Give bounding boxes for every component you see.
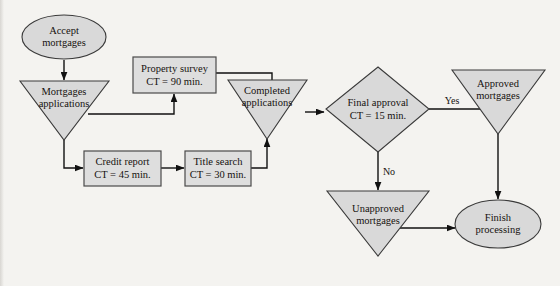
node-final-approval[interactable]: Final approval CT = 15 min. (326, 67, 429, 152)
completed-applications-label-line1: Completed (244, 85, 291, 96)
node-completed-applications[interactable]: Completed applications (228, 80, 307, 139)
edge-label-yes: Yes (445, 95, 460, 106)
node-unapproved-mortgages[interactable]: Unapproved mortgages (327, 191, 429, 256)
node-accept-mortgages[interactable]: Accept mortgages (22, 15, 106, 59)
completed-applications-label-line2: applications (242, 97, 293, 108)
node-credit-report[interactable]: Credit report CT = 45 min. (84, 151, 161, 186)
node-title-search[interactable]: Title search CT = 30 min. (185, 151, 251, 186)
title-search-label-line2: CT = 30 min. (190, 169, 246, 180)
flowchart-page: Accept mortgages Mortgages applications … (0, 0, 560, 286)
accept-mortgages-label-line1: Accept (49, 25, 79, 36)
property-survey-label-line2: CT = 90 min. (146, 76, 202, 87)
credit-report-label-line1: Credit report (96, 156, 150, 167)
mortgages-applications-label-line2: applications (39, 98, 90, 109)
node-finish-processing[interactable]: Finish processing (455, 200, 541, 248)
credit-report-label-line2: CT = 45 min. (94, 169, 150, 180)
node-approved-mortgages[interactable]: Approved mortgages (452, 70, 545, 134)
mortgages-applications-label-line1: Mortgages (42, 86, 87, 97)
finish-processing-label-line2: processing (476, 224, 522, 235)
connector-mortgages-to-credit-report (64, 140, 83, 168)
accept-mortgages-label-line2: mortgages (42, 37, 86, 48)
connector-mortgages-to-property-survey (88, 94, 174, 114)
finish-processing-label-line1: Finish (485, 212, 512, 223)
flowchart-canvas: Accept mortgages Mortgages applications … (0, 0, 560, 286)
title-search-label-line1: Title search (194, 156, 244, 167)
node-mortgages-applications[interactable]: Mortgages applications (20, 81, 109, 140)
edge-label-no: No (383, 166, 395, 177)
final-approval-label-line1: Final approval (348, 97, 409, 108)
connector-property-survey-to-completed (216, 73, 272, 80)
unapproved-mortgages-label-line1: Unapproved (352, 203, 405, 214)
node-property-survey[interactable]: Property survey CT = 90 min. (133, 57, 216, 93)
approved-mortgages-label-line2: mortgages (476, 90, 520, 101)
connector-title-search-to-completed (251, 139, 267, 168)
final-approval-label-line2: CT = 15 min. (350, 110, 406, 121)
unapproved-mortgages-label-line2: mortgages (356, 215, 400, 226)
approved-mortgages-label-line1: Approved (477, 78, 520, 89)
property-survey-label-line1: Property survey (141, 63, 209, 74)
